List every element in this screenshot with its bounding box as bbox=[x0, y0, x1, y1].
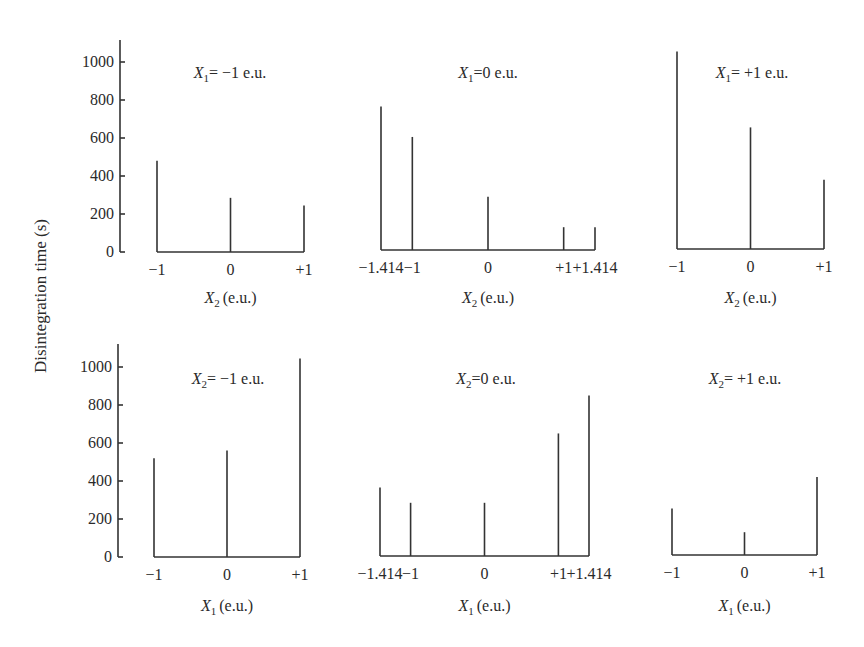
x-tick-label: +1 bbox=[808, 564, 825, 581]
x-tick-label: −1 bbox=[402, 565, 419, 582]
panel-2: −1.414−10+1+1.414X1=0 e.u.X2(e.u.) bbox=[358, 64, 617, 309]
x-tick-label: +1 bbox=[550, 565, 567, 582]
panel-title: X1= +1 e.u. bbox=[715, 64, 788, 84]
x-tick-label: +1 bbox=[291, 566, 308, 583]
panel-1: −10+1X1= −1 e.u.X2(e.u.) bbox=[148, 64, 312, 309]
x-axis-label: X2(e.u.) bbox=[723, 289, 776, 309]
y-tick-label: 0 bbox=[104, 548, 112, 565]
panel-3: −10+1X1= +1 e.u.X2(e.u.) bbox=[668, 51, 832, 309]
y-tick-label: 800 bbox=[90, 91, 114, 108]
y-tick-label: 1000 bbox=[80, 358, 112, 375]
x-tick-label: 0 bbox=[484, 259, 492, 276]
panel-title: X2= +1 e.u. bbox=[708, 370, 781, 390]
panel-6: −10+1X2= +1 e.u.X1(e.u.) bbox=[663, 370, 825, 617]
y-axis-bottom-row: 02004006008001000 bbox=[80, 344, 123, 565]
y-tick-label: 200 bbox=[90, 205, 114, 222]
x-tick-label: +1 bbox=[295, 261, 312, 278]
panel-title: X2=0 e.u. bbox=[455, 370, 515, 390]
x-axis-label: X2(e.u.) bbox=[461, 289, 514, 309]
x-tick-label: +1 bbox=[555, 259, 572, 276]
x-tick-label: +1.414 bbox=[572, 259, 617, 276]
x-tick-label: −1 bbox=[668, 258, 685, 275]
panel-title: X2= −1 e.u. bbox=[191, 370, 264, 390]
x-tick-label: +1 bbox=[815, 258, 832, 275]
x-tick-label: −1.414 bbox=[358, 259, 403, 276]
x-axis-label: X1(e.u.) bbox=[200, 597, 253, 617]
panels-group: −10+1X1= −1 e.u.X2(e.u.)−1.414−10+1+1.41… bbox=[145, 51, 832, 617]
panel-4: −10+1X2= −1 e.u.X1(e.u.) bbox=[145, 358, 308, 617]
y-axis-label: Disintegration time (s) bbox=[31, 219, 50, 373]
x-tick-label: −1.414 bbox=[357, 565, 402, 582]
panel-title: X1=0 e.u. bbox=[457, 64, 517, 84]
y-tick-label: 400 bbox=[88, 472, 112, 489]
x-tick-label: 0 bbox=[227, 261, 235, 278]
y-tick-label: 200 bbox=[88, 510, 112, 527]
x-axis-label: X2(e.u.) bbox=[203, 289, 256, 309]
y-tick-label: 800 bbox=[88, 396, 112, 413]
x-axis-label: X1(e.u.) bbox=[717, 597, 770, 617]
x-tick-label: −1 bbox=[404, 259, 421, 276]
x-tick-label: −1 bbox=[148, 261, 165, 278]
x-axis-label: X1(e.u.) bbox=[457, 597, 510, 617]
y-tick-label: 400 bbox=[90, 167, 114, 184]
y-tick-label: 0 bbox=[106, 243, 114, 260]
y-tick-label: 600 bbox=[90, 129, 114, 146]
x-tick-label: +1.414 bbox=[566, 565, 611, 582]
x-tick-label: −1 bbox=[145, 566, 162, 583]
chart-canvas: Disintegration time (s) 0200400600800100… bbox=[0, 0, 864, 647]
x-tick-label: 0 bbox=[223, 566, 231, 583]
x-tick-label: 0 bbox=[741, 564, 749, 581]
x-tick-label: −1 bbox=[663, 564, 680, 581]
y-tick-label: 600 bbox=[88, 434, 112, 451]
x-tick-label: 0 bbox=[747, 258, 755, 275]
y-tick-label: 1000 bbox=[82, 53, 114, 70]
panel-5: −1.414−10+1+1.414X2=0 e.u.X1(e.u.) bbox=[357, 370, 611, 617]
panel-title: X1= −1 e.u. bbox=[193, 64, 266, 84]
y-axis-top-row: 02004006008001000 bbox=[82, 40, 125, 260]
x-tick-label: 0 bbox=[481, 565, 489, 582]
